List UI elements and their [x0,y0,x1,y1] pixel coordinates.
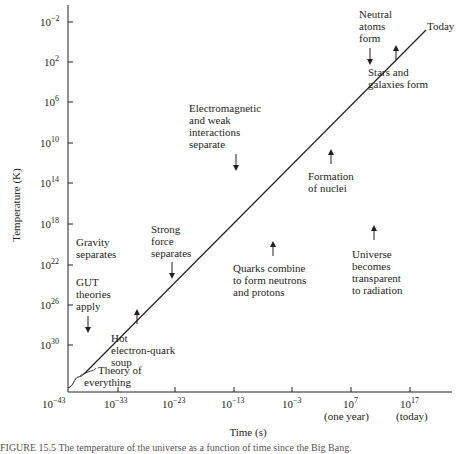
svg-text:separates: separates [151,247,191,259]
svg-text:10−2: 10−2 [40,14,60,28]
svg-text:separate: separate [189,138,225,150]
svg-text:106: 106 [44,94,59,108]
svg-text:1030: 1030 [40,337,59,351]
svg-text:1010: 1010 [40,135,59,149]
annotation-stars-galaxies: Stars and galaxies form [368,48,429,90]
start-curve [68,374,84,388]
annotation-strong-force: Strong force separates [151,223,191,276]
svg-text:of nuclei: of nuclei [308,182,347,194]
svg-text:separates: separates [76,248,116,260]
svg-text:107: 107 [343,396,358,410]
svg-text:10−3: 10−3 [282,396,302,410]
svg-text:Universe: Universe [352,248,392,260]
svg-text:Stars and: Stars and [368,66,409,78]
svg-text:102: 102 [44,54,59,68]
svg-text:becomes: becomes [352,260,390,272]
svg-text:(today): (today) [396,410,428,423]
svg-text:10−13: 10−13 [221,396,245,410]
svg-text:everything: everything [84,376,132,388]
svg-text:Strong: Strong [151,223,181,235]
svg-text:Hot: Hot [111,332,128,344]
svg-text:transparent: transparent [352,272,401,284]
svg-text:1022: 1022 [40,257,59,271]
svg-text:10−23: 10−23 [162,396,186,410]
annotation-nuclei: Formation of nuclei [308,152,354,194]
y-ticks [68,22,73,345]
svg-text:Gravity: Gravity [76,236,110,248]
annotation-soup: Hot electron-quark soup [111,312,176,368]
svg-text:Electromagnetic: Electromagnetic [189,102,261,114]
y-axis-label: Temperature (K) [10,168,23,242]
svg-text:1014: 1014 [40,175,59,189]
svg-text:Quarks combine: Quarks combine [233,262,306,274]
svg-text:galaxies form: galaxies form [368,78,429,90]
svg-text:Formation: Formation [308,170,354,182]
svg-text:Theory of: Theory of [98,364,142,376]
svg-text:10−33: 10−33 [104,396,128,410]
annotation-electroweak: Electromagnetic and weak interactions se… [189,102,261,168]
svg-text:electron-quark: electron-quark [111,344,176,356]
svg-text:to form neutrons: to form neutrons [233,274,306,286]
svg-text:and protons: and protons [233,286,285,298]
annotation-gravity: Gravity separates [76,236,116,260]
annotation-toe: Theory of everything [80,364,142,388]
chart: 10−2 102 106 1010 1014 1018 1022 1026 10… [0,0,458,454]
svg-text:theories: theories [76,288,111,300]
y-tick-labels: 10−2 102 106 1010 1014 1018 1022 1026 10… [40,14,60,351]
svg-text:1026: 1026 [40,297,59,311]
svg-text:and weak: and weak [189,114,231,126]
svg-text:1017: 1017 [400,396,419,410]
svg-text:to radiation: to radiation [352,284,403,296]
svg-text:Neutral: Neutral [359,8,392,20]
annotation-neutral-atoms: Neutral atoms form [359,8,392,62]
svg-text:apply: apply [76,300,101,312]
annotation-transparent: Universe becomes transparent to radiatio… [352,228,403,296]
annotation-today: Today [427,20,455,32]
svg-text:atoms: atoms [359,20,385,32]
x-tick-labels: 10−43 10−33 10−23 10−13 10−3 107 (one ye… [42,396,428,423]
figure-caption: FIGURE 15.5 The temperature of the unive… [0,442,352,453]
svg-text:1018: 1018 [40,216,59,230]
svg-text:form: form [359,32,381,44]
svg-text:10−43: 10−43 [42,396,66,410]
svg-text:GUT: GUT [76,276,99,288]
svg-text:interactions: interactions [189,126,240,138]
annotation-gut: GUT theories apply [76,276,111,330]
svg-text:(one year): (one year) [324,410,369,423]
svg-text:force: force [151,235,174,247]
x-axis-label: Time (s) [229,426,267,439]
annotation-quarks: Quarks combine to form neutrons and prot… [233,244,306,298]
x-ticks [118,387,410,392]
